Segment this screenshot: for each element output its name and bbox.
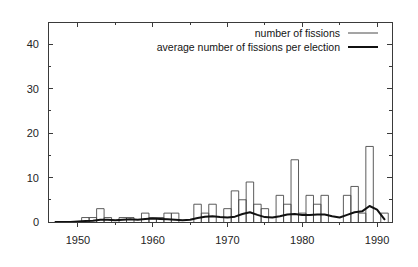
bar-1987	[351, 186, 358, 222]
bar-1972	[239, 200, 246, 222]
x-tick-label-1980: 1980	[290, 234, 314, 246]
bar-1989	[366, 146, 373, 222]
legend-label-1: average number of fissions per election	[157, 41, 340, 53]
chart-figure: 010203040 19501960197019801990 number of…	[0, 0, 418, 267]
average-line-series	[55, 206, 384, 222]
x-tick-label-1970: 1970	[215, 234, 239, 246]
y-tick-label-20: 20	[27, 127, 39, 139]
bar-1988	[358, 213, 365, 222]
x-axis-ticks: 19501960197019801990	[66, 22, 390, 246]
bar-1968	[209, 204, 216, 222]
bar-1962	[164, 213, 171, 222]
chart-plot-area: 010203040 19501960197019801990 number of…	[0, 0, 418, 267]
bar-1982	[313, 204, 320, 222]
bar-1981	[306, 195, 313, 222]
x-tick-label-1960: 1960	[140, 234, 164, 246]
y-tick-label-0: 0	[33, 216, 39, 228]
y-tick-label-10: 10	[27, 172, 39, 184]
bar-1983	[321, 195, 328, 222]
legend-label-0: number of fissions	[255, 27, 340, 39]
bar-1978	[284, 204, 291, 222]
bar-1979	[291, 160, 298, 222]
y-tick-label-40: 40	[27, 38, 39, 50]
x-tick-label-1990: 1990	[365, 234, 389, 246]
y-tick-label-30: 30	[27, 83, 39, 95]
bar-1959	[141, 213, 148, 222]
x-tick-label-1950: 1950	[66, 234, 90, 246]
bar-1973	[246, 182, 253, 222]
bar-1970	[224, 209, 231, 222]
chart-legend: number of fissionsaverage number of fiss…	[157, 27, 378, 53]
y-axis-ticks: 010203040	[27, 38, 392, 228]
bar-1977	[276, 195, 283, 222]
bar-1986	[343, 195, 350, 222]
bar-series-group	[82, 146, 389, 222]
